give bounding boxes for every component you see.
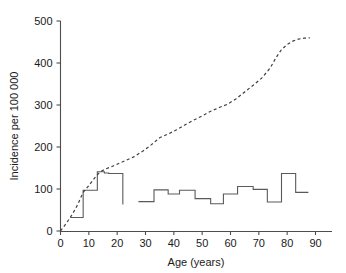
data-series-layer bbox=[61, 38, 310, 231]
x-tick-label: 70 bbox=[253, 237, 265, 249]
x-tick-label: 20 bbox=[111, 237, 123, 249]
y-tick-label: 500 bbox=[34, 15, 52, 27]
y-tick-label: 400 bbox=[34, 57, 52, 69]
y-tick-label: 200 bbox=[34, 141, 52, 153]
y-tick-label: 0 bbox=[46, 225, 52, 237]
x-tick-label: 10 bbox=[83, 237, 95, 249]
axis-lines bbox=[61, 21, 333, 232]
y-axis-title: Incidence per 100 000 bbox=[8, 72, 20, 181]
y-tick-label: 300 bbox=[34, 99, 52, 111]
x-axis-title: Age (years) bbox=[168, 256, 225, 268]
x-tick-label: 30 bbox=[139, 237, 151, 249]
step-series-adult bbox=[138, 173, 308, 203]
x-tick-label: 80 bbox=[281, 237, 293, 249]
x-tick-label: 0 bbox=[57, 237, 63, 249]
step-series-young bbox=[70, 172, 122, 218]
y-axis-ticks: 0100200300400500 bbox=[34, 15, 60, 237]
x-tick-label: 40 bbox=[168, 237, 180, 249]
incidence-by-age-chart: 0100200300400500 0102030405060708090 Age… bbox=[0, 0, 346, 273]
x-tick-label: 90 bbox=[309, 237, 321, 249]
y-tick-label: 100 bbox=[34, 183, 52, 195]
x-axis-ticks: 0102030405060708090 bbox=[57, 231, 321, 249]
chart-canvas: 0100200300400500 0102030405060708090 Age… bbox=[0, 0, 346, 273]
x-tick-label: 60 bbox=[224, 237, 236, 249]
x-tick-label: 50 bbox=[196, 237, 208, 249]
